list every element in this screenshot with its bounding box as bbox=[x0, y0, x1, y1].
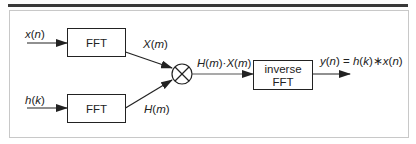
signal-Xm-label: X(m) bbox=[142, 38, 168, 50]
signal-product-label: H(m)·X(m) bbox=[197, 57, 252, 69]
block-diagram: x(n) FFT h(k) FFT X(m) H(m) H(m)·X(m) in… bbox=[0, 0, 416, 144]
fft-bottom-label: FFT bbox=[86, 103, 107, 115]
ifft-block: inverse FFT bbox=[254, 61, 313, 90]
input-h: h(k) bbox=[25, 94, 67, 108]
fft-block-top: FFT bbox=[68, 29, 126, 57]
input-x: x(n) bbox=[24, 28, 67, 43]
arrow-Xm-to-multiplier bbox=[126, 52, 173, 68]
signal-Hm-label: H(m) bbox=[144, 103, 170, 115]
ifft-label-line1: inverse bbox=[264, 63, 301, 75]
fft-top-label: FFT bbox=[86, 37, 107, 49]
output-equation-label: y(n) = h(k)∗x(n) bbox=[319, 55, 403, 67]
ifft-label-line2: FFT bbox=[272, 76, 293, 88]
multiplier-icon bbox=[172, 64, 192, 84]
input-x-label: x(n) bbox=[24, 28, 45, 40]
input-h-label: h(k) bbox=[25, 94, 45, 106]
fft-block-bottom: FFT bbox=[68, 95, 126, 123]
